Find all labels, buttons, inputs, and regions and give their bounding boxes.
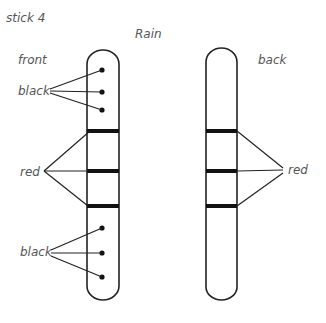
back-band-1 (206, 129, 237, 133)
front-bottom-black-label: black (20, 245, 53, 259)
front-band-3 (87, 204, 119, 208)
back-label: back (258, 53, 288, 67)
front-red-label: red (20, 165, 40, 179)
diagram-subtitle: Rain (135, 27, 162, 41)
back-band-2 (206, 169, 237, 173)
back-stick (206, 48, 237, 300)
front-band-1 (87, 129, 119, 133)
diagram-title: stick 4 (6, 11, 45, 25)
back-leader-lines (237, 131, 283, 206)
back-band-3 (206, 204, 237, 208)
back-red-label: red (288, 163, 308, 177)
front-stick (87, 50, 119, 300)
front-label: front (18, 53, 48, 67)
front-top-black-label: black (18, 84, 51, 98)
front-band-2 (87, 169, 119, 173)
stick-diagram: stick 4 Rain front back black red black … (0, 0, 326, 323)
